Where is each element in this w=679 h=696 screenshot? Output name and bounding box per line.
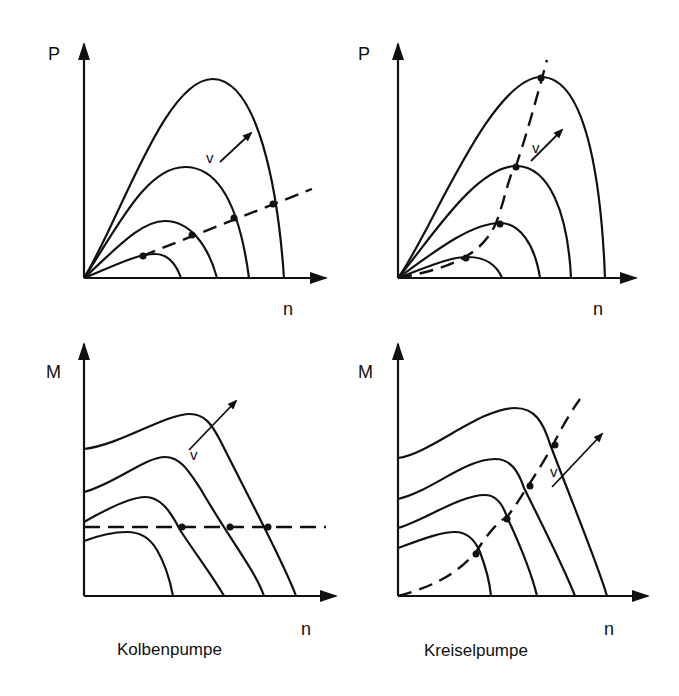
power-curve-4 bbox=[84, 79, 284, 278]
panel-bottom-right bbox=[398, 344, 648, 596]
pump-characteristics-diagram bbox=[0, 0, 679, 696]
y-axis-label-top-left: P bbox=[48, 45, 60, 63]
operating-line bbox=[398, 60, 547, 278]
param-label-top-right: v bbox=[532, 140, 540, 155]
torque-curve-2 bbox=[398, 495, 537, 596]
x-axis-label-bottom-right: n bbox=[604, 620, 614, 638]
torque-curve-1 bbox=[84, 532, 173, 596]
x-axis-label-bottom-left: n bbox=[301, 620, 311, 638]
v-arrow bbox=[552, 434, 602, 487]
panel-top-right bbox=[398, 44, 636, 278]
y-axis-label-top-right: P bbox=[358, 45, 370, 63]
power-curve-4 bbox=[398, 77, 605, 278]
param-label-bottom-right: v bbox=[550, 464, 558, 479]
v-arrow bbox=[189, 401, 236, 450]
caption-kolbenpumpe: Kolbenpumpe bbox=[117, 641, 222, 658]
torque-curve-4 bbox=[398, 408, 607, 596]
panel-bottom-left bbox=[84, 344, 336, 596]
y-axis-label-bottom-left: M bbox=[46, 363, 61, 381]
v-arrow bbox=[220, 133, 251, 162]
power-curve-3 bbox=[398, 166, 571, 278]
torque-curve-1 bbox=[398, 532, 491, 596]
x-axis-label-top-left: n bbox=[283, 300, 293, 318]
param-label-top-left: v bbox=[206, 150, 214, 165]
panel-top-left bbox=[84, 44, 326, 278]
x-axis-label-top-right: n bbox=[593, 300, 603, 318]
operating-line bbox=[398, 399, 580, 596]
param-label-bottom-left: v bbox=[190, 447, 198, 462]
caption-kreiselpumpe: Kreiselpumpe bbox=[424, 642, 528, 659]
y-axis-label-bottom-right: M bbox=[358, 363, 373, 381]
